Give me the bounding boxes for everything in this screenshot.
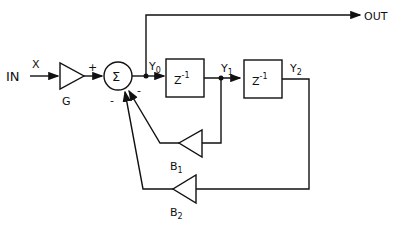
b2-label: B2 [170, 206, 183, 221]
b1-to-sum-wire [129, 91, 179, 143]
b1-label: B1 [170, 160, 183, 175]
y2-label: Y2 [289, 62, 302, 77]
summer-symbol: Σ [112, 69, 120, 84]
gain-g-label: G [62, 95, 71, 108]
signal-x-label: X [32, 58, 40, 71]
gain-g-amplifier-icon [60, 63, 84, 89]
b2-to-sum-wire [125, 92, 173, 189]
b2-amplifier-icon [173, 175, 196, 203]
filter-block-diagram: IN X G + Σ - - OUT Y0 Z-1 Y1 Z-1 Y2 B1 B… [0, 0, 411, 225]
minus-sign-1: - [110, 94, 114, 107]
y0-label: Y0 [148, 60, 161, 75]
y1-feedback-wire [202, 78, 221, 143]
plus-sign: + [88, 61, 97, 74]
input-label: IN [6, 69, 20, 84]
minus-sign-2: - [137, 84, 141, 97]
output-label: OUT [364, 10, 388, 23]
y1-label: Y1 [220, 62, 233, 77]
b1-amplifier-icon [179, 130, 202, 157]
